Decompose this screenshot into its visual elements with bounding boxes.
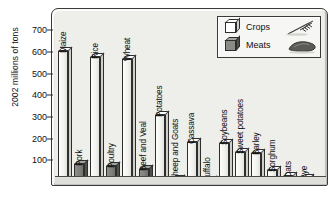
bar-maize: [58, 51, 68, 182]
bar-label-sorghum: Sorghum: [268, 139, 277, 172]
bar-label-maize: Maize: [59, 32, 68, 53]
bar-rice: [90, 57, 100, 182]
bar-label-potatoes: Potatoes: [155, 85, 164, 117]
wheat-stalk-icon: [285, 20, 319, 36]
y-tick-mark: [47, 30, 54, 31]
legend-label-meats: Meats: [246, 40, 271, 50]
legend-item-crops: Crops: [223, 20, 319, 37]
bar-label-pork: Pork: [75, 149, 84, 165]
bar-label-wheat: Wheat: [123, 38, 132, 61]
bar-label-beef-and-veal: Beef and Veal: [139, 122, 148, 172]
meats-cube-icon: [225, 40, 236, 51]
legend: Crops Meats: [217, 16, 321, 58]
axis-baseline: [55, 176, 326, 184]
y-tick-mark: [47, 138, 54, 139]
crops-cube-icon: [225, 22, 236, 33]
bar-label-rice: Rice: [91, 43, 100, 59]
bar-label-sheep-and-goats: Sheep and Goats: [171, 119, 180, 181]
bar-label-cassava: Cassava: [187, 113, 196, 144]
bar-label-soybeans: Soybeans: [220, 109, 229, 145]
y-tick-mark: [47, 73, 54, 74]
legend-label-crops: Crops: [246, 22, 270, 32]
bar-wheat: [122, 59, 132, 182]
bar-potatoes: [155, 115, 165, 182]
bar-chart: 2002 millions of tons 100200300400500600…: [0, 0, 332, 197]
bar-label-barley: Barley: [252, 132, 261, 155]
bar-label-sweet-potatoes: Sweet potatoes: [236, 99, 245, 154]
meat-slab-icon: [285, 38, 319, 54]
y-tick-mark: [47, 116, 54, 117]
legend-item-meats: Meats: [223, 38, 319, 55]
y-tick-mark: [47, 51, 54, 52]
bar-label-poultry: Poultry: [107, 143, 116, 168]
